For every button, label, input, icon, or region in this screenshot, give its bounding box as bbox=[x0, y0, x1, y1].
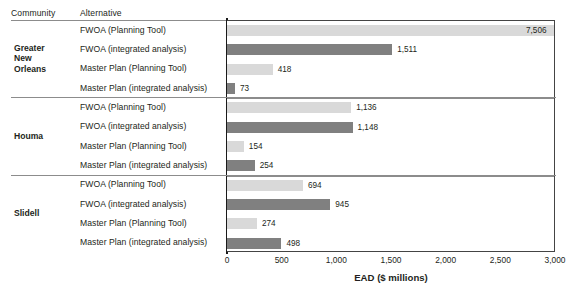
x-axis-tick-layer: 05001,0001,5002,0002,5003,000 bbox=[0, 0, 577, 295]
chart-figure: Community Alternative 7,5061,511418731,1… bbox=[0, 0, 577, 295]
x-axis-tick-label: 1,500 bbox=[381, 255, 402, 265]
x-axis-tick-label: 2,500 bbox=[490, 255, 511, 265]
x-axis-tick-label: 3,000 bbox=[545, 255, 566, 265]
x-axis-tick-label: 500 bbox=[275, 255, 289, 265]
x-axis-tick-label: 1,000 bbox=[326, 255, 347, 265]
x-axis-tick-label: 0 bbox=[225, 255, 230, 265]
x-axis-title: EAD ($ millions) bbox=[227, 272, 555, 283]
x-axis-tick-label: 2,000 bbox=[435, 255, 456, 265]
